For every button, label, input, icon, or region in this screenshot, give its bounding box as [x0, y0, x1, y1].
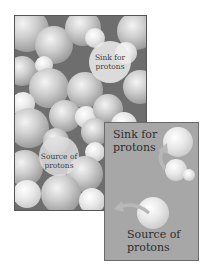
source-label-line2: protons: [41, 161, 77, 170]
inset-panel: Sink for protons Source of protons: [104, 122, 199, 261]
inset-source-line2: protons: [127, 242, 180, 255]
inset-source-label: Source of protons: [127, 229, 180, 254]
inset-source-line1: Source of: [127, 229, 180, 242]
source-highlight: Source of protons: [39, 136, 79, 176]
sink-label-line1: Sink for: [95, 53, 125, 62]
sink-highlight: Sink for protons: [89, 41, 131, 83]
source-label-line1: Source of: [41, 152, 77, 161]
molecule-sphere: [41, 174, 81, 211]
molecule-sphere: [79, 188, 105, 211]
molecule-sphere: [123, 70, 147, 104]
sink-label-line2: protons: [95, 62, 125, 71]
molecule-sphere: [14, 180, 41, 208]
